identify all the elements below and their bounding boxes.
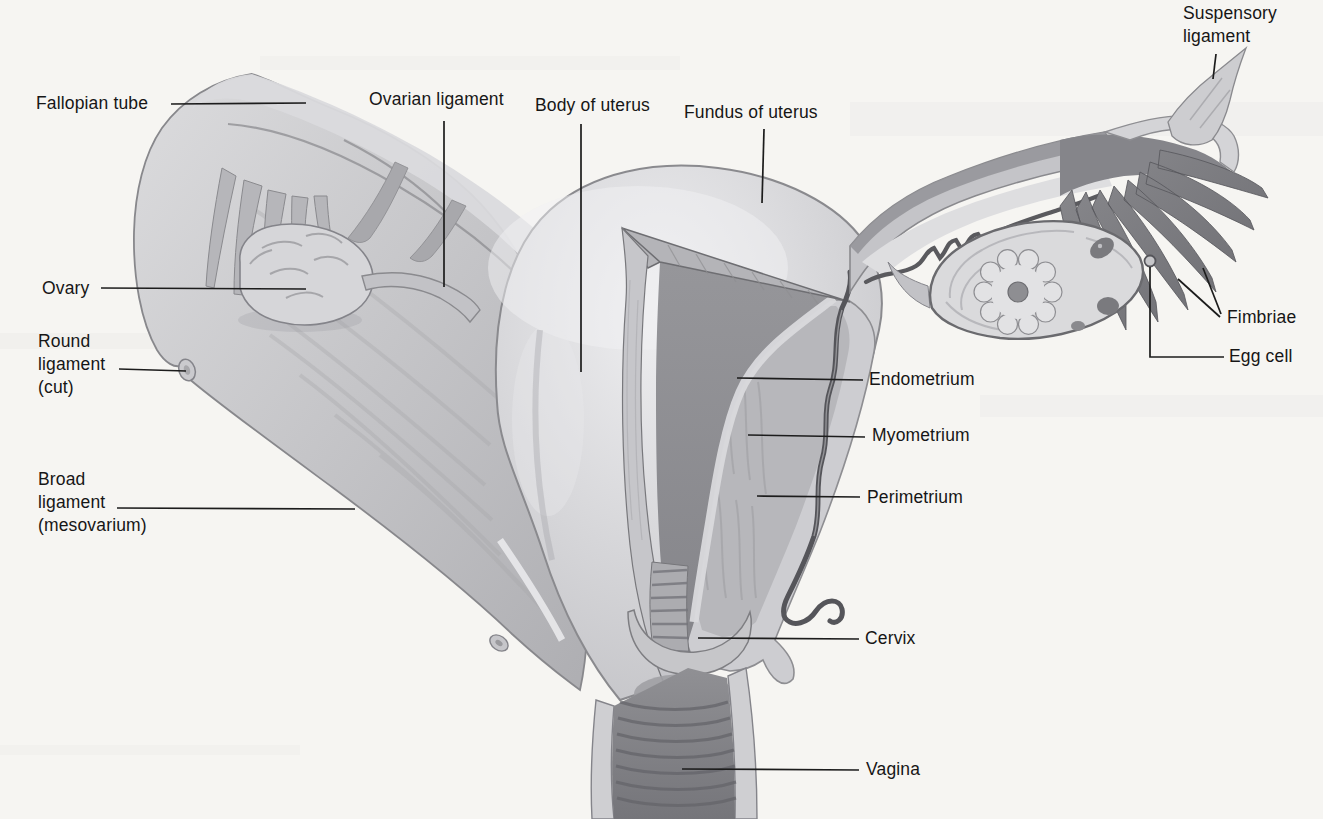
label-fundus-of-uterus: Fundus of uterus <box>684 101 818 124</box>
leader-broad-ligament <box>117 508 355 509</box>
label-endometrium: Endometrium <box>869 368 975 391</box>
vagina-left-wall <box>591 700 614 819</box>
label-perimetrium: Perimetrium <box>867 486 963 509</box>
label-broad-ligament: Broad ligament (mesovarium) <box>38 468 147 536</box>
leader-ovary <box>101 288 306 289</box>
anatomy-figure: Fallopian tube Ovarian ligament Body of … <box>0 0 1323 819</box>
label-cervix: Cervix <box>865 627 916 650</box>
ovarian-follicle-3 <box>1071 321 1085 331</box>
label-body-of-uterus: Body of uterus <box>535 94 650 117</box>
leader-fallopian-tube <box>171 103 306 104</box>
label-vagina: Vagina <box>866 758 920 781</box>
leader-cervix <box>698 638 859 639</box>
label-fimbriae: Fimbriae <box>1227 306 1296 329</box>
label-fallopian-tube: Fallopian tube <box>36 92 148 115</box>
egg-cell-shape <box>1145 256 1156 267</box>
label-ovary: Ovary <box>42 277 89 300</box>
label-myometrium: Myometrium <box>872 424 970 447</box>
label-round-ligament: Round ligament (cut) <box>38 330 105 398</box>
label-suspensory-ligament: Suspensory ligament <box>1183 2 1277 48</box>
follicle-highlight <box>1098 244 1102 248</box>
ovarian-follicle-2 <box>1097 297 1119 315</box>
corpus-luteum-center <box>1008 282 1028 302</box>
anatomy-illustration <box>0 0 1323 819</box>
uterus-left-sheen <box>512 324 584 516</box>
label-egg-cell: Egg cell <box>1229 345 1292 368</box>
label-ovarian-ligament: Ovarian ligament <box>369 88 504 111</box>
leader-perimetrium <box>757 496 860 497</box>
leader-vagina <box>682 769 859 770</box>
